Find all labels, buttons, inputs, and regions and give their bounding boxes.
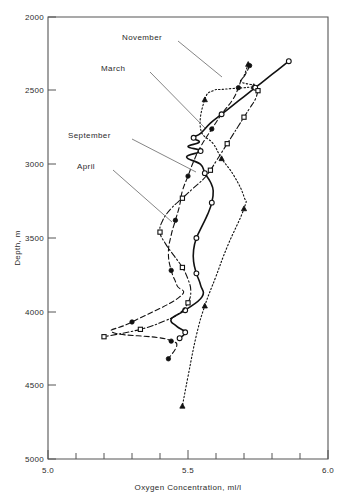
series-april bbox=[102, 89, 260, 339]
y-tick-label: 5000 bbox=[25, 455, 44, 464]
y-axis-tick-labels: 2000 2500 3000 3500 4000 4500 5000 bbox=[25, 13, 44, 464]
x-axis-tick-labels: 5.0 5.5 6.0 bbox=[42, 466, 334, 475]
series-line-september bbox=[171, 61, 289, 338]
x-axis-title: Oxygen Concentration, ml/l bbox=[135, 483, 242, 492]
y-tick-label: 2000 bbox=[25, 13, 44, 22]
annotation-label-march: March bbox=[101, 64, 125, 73]
leader-line-march bbox=[150, 72, 205, 128]
x-axis-ticks bbox=[48, 450, 328, 459]
x-tick-label: 5.0 bbox=[42, 466, 54, 475]
data-series-layer bbox=[102, 59, 291, 408]
x-tick-label: 6.0 bbox=[322, 466, 334, 475]
annotation-label-september: September bbox=[68, 131, 111, 140]
series-september bbox=[171, 59, 291, 341]
y-tick-label: 2500 bbox=[25, 86, 44, 95]
y-tick-label: 3000 bbox=[25, 160, 44, 169]
series-markers-march bbox=[130, 63, 252, 361]
leader-line-april bbox=[113, 170, 172, 222]
annotation-layer: November March September April bbox=[68, 33, 222, 222]
annotation-label-november: November bbox=[122, 33, 162, 42]
y-axis-ticks bbox=[48, 17, 56, 459]
y-axis-title: Depth, m bbox=[13, 230, 22, 266]
series-line-march bbox=[111, 66, 250, 359]
leader-line-november bbox=[178, 41, 222, 77]
series-line-april bbox=[104, 91, 258, 337]
y-tick-label: 4000 bbox=[25, 308, 44, 317]
y-tick-label: 4500 bbox=[25, 381, 44, 390]
series-markers-april bbox=[102, 89, 260, 339]
series-markers-september bbox=[177, 59, 291, 341]
y-tick-label: 3500 bbox=[25, 234, 44, 243]
x-tick-label: 5.5 bbox=[182, 466, 194, 475]
annotation-label-april: April bbox=[77, 162, 95, 171]
leader-line-september bbox=[132, 139, 196, 172]
plot-frame bbox=[48, 17, 328, 459]
oxygen-depth-profile-chart: 2000 2500 3000 3500 4000 4500 5000 5.0 5… bbox=[0, 0, 349, 499]
